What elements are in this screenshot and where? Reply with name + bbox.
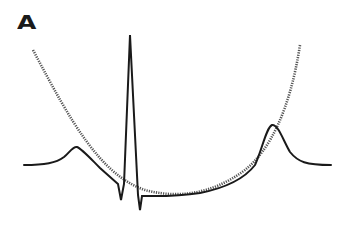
ecg-trace bbox=[24, 35, 331, 210]
diagram-canvas bbox=[0, 0, 354, 233]
parabola-curve bbox=[33, 45, 300, 194]
